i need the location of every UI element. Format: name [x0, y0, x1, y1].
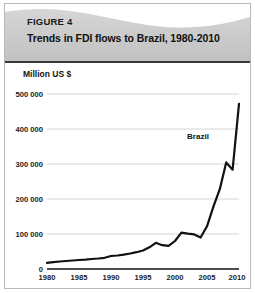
y-tick-label: 100 000 [16, 230, 43, 239]
x-tick-label: 1980 [39, 273, 56, 282]
series-line-brazil [47, 104, 239, 263]
line-chart-svg: 500 000 400 000 300 000 200 000 100 000 … [5, 63, 250, 288]
x-tick-label: 2000 [167, 273, 184, 282]
x-tick-label: 1995 [135, 273, 153, 282]
y-tick-label: 200 000 [16, 195, 43, 204]
y-axis-tick-labels: 500 000 400 000 300 000 200 000 100 000 … [16, 90, 43, 274]
series-annotation-brazil: Brazil [187, 132, 209, 141]
x-tick-label: 2005 [199, 273, 217, 282]
plot-panel: Million US $ 500 000 400 000 300 000 200… [5, 63, 250, 288]
x-axis-tick-labels: 1980 1985 1990 1995 2000 2005 2010 [39, 273, 246, 282]
y-tick-label: 400 000 [16, 125, 43, 134]
x-tick-label: 1990 [103, 273, 120, 282]
x-tick-label: 1985 [71, 273, 89, 282]
x-tick-label: 2010 [229, 273, 246, 282]
header-band [5, 4, 250, 61]
y-tick-label: 300 000 [16, 160, 43, 169]
figure-container: FIGURE 4 Trends in FDI flows to Brazil, … [0, 0, 255, 293]
y-tick-label: 500 000 [16, 90, 43, 99]
header-wave-shape [5, 4, 250, 61]
